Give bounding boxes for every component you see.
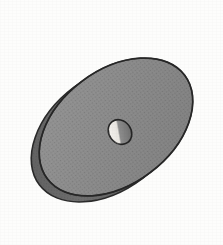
- disc-illustration: [0, 0, 223, 245]
- illustration-canvas: Shaded 3D disc with central bore: [0, 0, 223, 245]
